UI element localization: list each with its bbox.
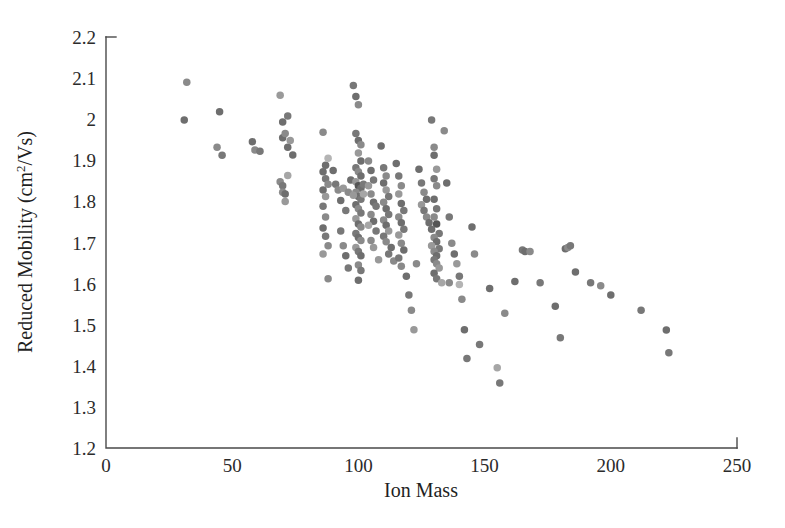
- data-point: [355, 101, 363, 109]
- data-point: [410, 326, 418, 334]
- data-point: [486, 285, 494, 293]
- data-point: [415, 166, 423, 174]
- data-point: [433, 182, 441, 190]
- data-point: [428, 226, 436, 234]
- data-point: [380, 198, 388, 206]
- data-point: [511, 278, 519, 286]
- y-axis-title-prefix: Reduced Mobility (cm: [14, 171, 37, 353]
- data-point: [428, 116, 436, 124]
- data-point: [357, 237, 365, 245]
- data-point: [357, 223, 365, 231]
- data-point: [380, 164, 388, 172]
- data-point: [370, 244, 378, 252]
- data-point: [403, 272, 411, 280]
- data-point: [400, 207, 408, 215]
- y-tick-label: 2.1: [72, 68, 96, 89]
- data-point: [501, 309, 509, 317]
- data-point: [342, 207, 350, 215]
- data-point: [340, 242, 348, 250]
- data-point: [289, 151, 297, 159]
- data-point: [357, 252, 365, 260]
- x-tick-label: 150: [470, 455, 499, 476]
- data-point: [476, 341, 484, 349]
- data-point: [324, 242, 332, 250]
- y-tick-label: 1.9: [72, 150, 96, 171]
- data-point: [433, 166, 441, 174]
- x-tick-label: 250: [723, 455, 752, 476]
- data-point: [405, 291, 413, 299]
- data-point: [430, 213, 438, 221]
- data-point: [279, 182, 287, 190]
- data-point: [380, 179, 388, 187]
- data-point: [443, 179, 451, 187]
- data-point: [284, 112, 292, 120]
- y-tick-label: 1.4: [72, 356, 96, 377]
- data-point: [345, 264, 353, 272]
- data-point: [352, 93, 360, 101]
- y-axis-title-text: Reduced Mobility (cm2/Vs): [13, 131, 37, 353]
- data-point: [365, 182, 373, 190]
- data-point: [281, 198, 289, 206]
- data-point: [337, 227, 345, 235]
- x-tick-label: 100: [344, 455, 373, 476]
- data-point: [387, 244, 395, 252]
- x-tick-label: 200: [597, 455, 626, 476]
- data-point: [367, 190, 375, 198]
- plot-canvas: 1.21.31.41.51.61.71.81.922.12.2 05010015…: [0, 0, 785, 528]
- y-tick-label: 1.5: [72, 315, 96, 336]
- scatter-plot-figure: 1.21.31.41.51.61.71.81.922.12.2 05010015…: [0, 0, 785, 528]
- data-point: [279, 118, 287, 126]
- data-point: [493, 364, 501, 372]
- data-point: [355, 149, 363, 157]
- data-point: [456, 272, 464, 280]
- data-point: [398, 200, 406, 208]
- data-point: [180, 116, 188, 124]
- y-tick-label: 1.6: [72, 274, 96, 295]
- data-point: [322, 161, 330, 169]
- data-point: [395, 254, 403, 262]
- data-point: [398, 263, 406, 271]
- data-point: [413, 260, 421, 268]
- data-point: [382, 186, 390, 194]
- data-point: [398, 219, 406, 227]
- data-point: [183, 78, 191, 86]
- data-point: [418, 179, 426, 187]
- data-point: [284, 172, 292, 180]
- data-point: [496, 379, 504, 387]
- y-tick-label: 1.8: [72, 191, 96, 212]
- data-point: [461, 326, 469, 334]
- data-point: [430, 175, 438, 183]
- data-point: [393, 160, 401, 168]
- data-point: [342, 252, 350, 260]
- data-point: [536, 279, 544, 287]
- data-point: [448, 240, 456, 248]
- data-point: [430, 152, 438, 160]
- data-point: [324, 155, 332, 163]
- data-point: [322, 193, 330, 201]
- data-point: [458, 295, 466, 303]
- data-point: [400, 246, 408, 254]
- data-point: [385, 250, 393, 258]
- data-point: [319, 250, 327, 258]
- data-point: [385, 193, 393, 201]
- y-axis-title: Reduced Mobility (cm2/Vs): [13, 131, 37, 353]
- data-point: [216, 108, 224, 116]
- data-point: [665, 349, 673, 357]
- data-point: [324, 275, 332, 283]
- data-point: [440, 127, 448, 135]
- data-point: [367, 237, 375, 245]
- data-point: [357, 209, 365, 217]
- y-axis-title-suffix: /Vs): [14, 131, 37, 165]
- data-point: [567, 242, 575, 250]
- data-point: [322, 233, 330, 241]
- data-point: [400, 226, 408, 234]
- data-point: [420, 189, 428, 197]
- data-point: [213, 143, 221, 151]
- x-axis-title: Ion Mass: [384, 479, 458, 501]
- data-point: [425, 219, 433, 227]
- data-point: [360, 190, 368, 198]
- data-point: [377, 142, 385, 150]
- data-point: [370, 176, 378, 184]
- data-point: [357, 267, 365, 275]
- data-point: [372, 227, 380, 235]
